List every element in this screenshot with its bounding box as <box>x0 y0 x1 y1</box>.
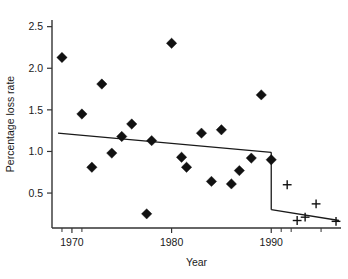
data-point-diamond <box>107 148 117 158</box>
diamond-marker-group <box>57 38 277 219</box>
y-axis-title: Percentage loss rate <box>4 76 16 172</box>
data-point-diamond <box>206 176 216 186</box>
data-point-diamond <box>57 52 67 62</box>
data-point-diamond <box>216 125 226 135</box>
y-tick-label: 2.0 <box>28 62 43 74</box>
data-point-diamond <box>141 209 151 219</box>
data-point-diamond <box>77 109 87 119</box>
fitted-line <box>58 133 271 152</box>
x-tick-label: 1990 <box>260 236 284 248</box>
data-point-diamond <box>234 165 244 175</box>
data-point-diamond <box>176 152 186 162</box>
data-point-diamond <box>97 79 107 89</box>
data-point-diamond <box>127 119 137 129</box>
data-point-diamond <box>246 153 256 163</box>
x-axis-ticks <box>62 228 321 233</box>
data-point-diamond <box>266 155 276 165</box>
chart-container: 0.51.01.52.02.5 197019801990 Year Percen… <box>0 0 348 279</box>
y-tick-label-group: 0.51.01.52.02.5 <box>28 20 43 198</box>
fitted-line-group <box>58 133 339 220</box>
y-tick-label: 0.5 <box>28 187 43 199</box>
data-point-diamond <box>117 131 127 141</box>
data-point-diamond <box>196 128 206 138</box>
x-tick-label-group: 197019801990 <box>60 236 283 248</box>
data-point-diamond <box>166 38 176 48</box>
data-point-diamond <box>256 90 266 100</box>
y-tick-label: 2.5 <box>28 20 43 32</box>
x-axis-title: Year <box>186 256 208 268</box>
axis-lines <box>52 20 341 228</box>
data-point-diamond <box>181 162 191 172</box>
data-point-diamond <box>146 135 156 145</box>
data-point-diamond <box>226 179 236 189</box>
y-axis-ticks <box>47 27 52 193</box>
y-tick-label: 1.5 <box>28 104 43 116</box>
scatter-plot: 0.51.01.52.02.5 197019801990 Year Percen… <box>0 0 348 279</box>
y-tick-label: 1.0 <box>28 145 43 157</box>
data-point-diamond <box>87 162 97 172</box>
x-tick-label: 1970 <box>60 236 84 248</box>
x-tick-label: 1980 <box>160 236 184 248</box>
